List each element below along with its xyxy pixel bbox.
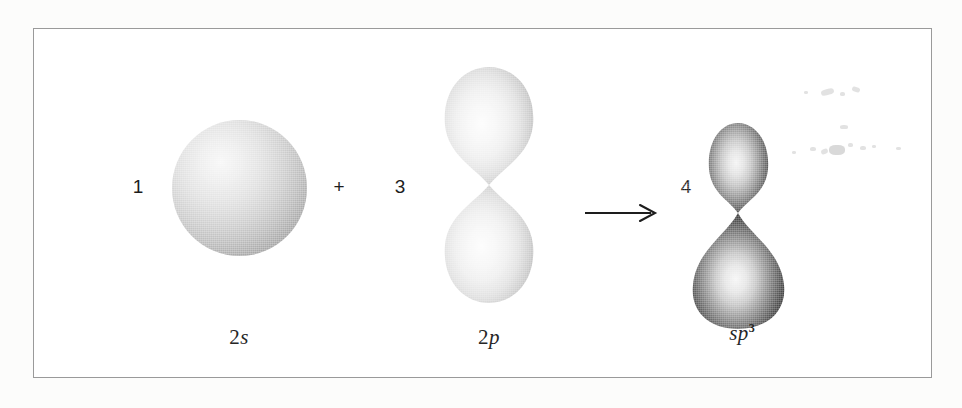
scan-artifact (872, 145, 876, 148)
orbital-label-2s: 2s (199, 325, 279, 350)
plus-operator: + (328, 177, 350, 196)
reaction-arrow-icon (585, 201, 659, 225)
orbital-label-2p: 2p (439, 325, 539, 350)
scan-artifact (820, 88, 834, 97)
scan-artifact (820, 148, 828, 155)
orbital-label-2p-number: 2 (478, 325, 489, 349)
figure-frame: 1 2s + 3 (33, 28, 932, 378)
orbital-label-2s-number: 2 (229, 325, 240, 349)
orbital-label-2p-symbol: p (489, 325, 500, 349)
orbital-2s-sphere (172, 120, 307, 256)
orbital-2p-dumbbell (434, 63, 544, 307)
scan-artifact (840, 125, 848, 129)
scan-artifact (860, 146, 866, 150)
coefficient-2s: 1 (127, 177, 149, 196)
coefficient-2p: 3 (389, 177, 411, 196)
orbital-sp3-hybrid (682, 101, 798, 333)
orbital-label-2s-symbol: s (240, 325, 249, 349)
scan-artifact (810, 147, 816, 151)
scan-artifact (848, 143, 853, 147)
scan-artifact (896, 147, 901, 150)
scan-artifact (829, 145, 845, 155)
scan-artifact (840, 92, 845, 96)
orbital-label-sp3-symbol: sp (729, 321, 749, 345)
orbital-label-sp3-superscript: 3 (749, 321, 755, 335)
scan-artifact (851, 86, 860, 93)
orbital-label-sp3: sp3 (689, 321, 795, 346)
scan-artifact (804, 91, 808, 94)
